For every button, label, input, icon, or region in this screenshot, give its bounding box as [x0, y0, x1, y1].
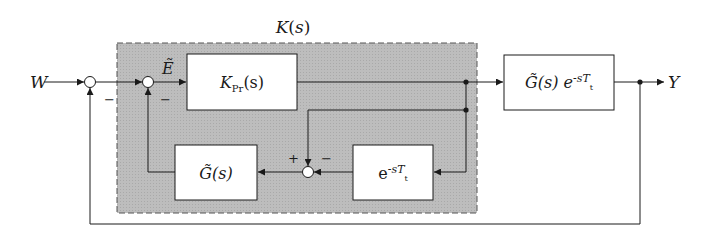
controller-block: KPr(s) [187, 54, 297, 110]
plant-block: G̃(s) e-sTt [504, 55, 614, 110]
svg-text:G̃(s): G̃(s) [199, 164, 232, 183]
model-block: G̃(s) [175, 145, 257, 200]
output-signal-label: Y [668, 72, 681, 92]
delay-model-block: e-sTt [353, 145, 433, 200]
sum3-plus-sign: + [288, 151, 299, 166]
block-diagram: K(s) W − − Ẽ KPr(s) e-sTt + − G [0, 0, 720, 234]
summing-junction-2 [143, 77, 154, 88]
sum2-minus-sign: − [160, 92, 171, 107]
controller-group-label: K(s) [275, 17, 311, 37]
error-signal-label: Ẽ [161, 58, 174, 78]
sum1-minus-sign: − [104, 92, 115, 107]
sum3-minus-sign: − [321, 151, 332, 166]
summing-junction-3 [303, 167, 314, 178]
summing-junction-1 [85, 77, 96, 88]
